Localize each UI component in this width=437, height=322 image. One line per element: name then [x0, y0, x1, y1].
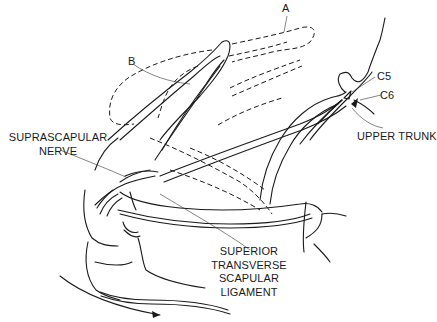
dashed-outline-a — [218, 27, 314, 125]
label-ligament-line-3: SCAPULAR — [207, 272, 291, 286]
label-suprascapular-nerve-line-2: NERVE — [8, 145, 108, 159]
label-ligament-line-4: LIGAMENT — [207, 286, 291, 300]
label-ligament-line-1: SUPERIOR — [207, 245, 291, 259]
scapula-body — [84, 138, 322, 246]
label-upper-trunk: UPPER TRUNK — [357, 130, 437, 144]
leader-lines — [60, 16, 383, 250]
label-c6: C6 — [380, 89, 394, 103]
label-a: A — [282, 2, 289, 16]
label-ligament-line-2: TRANSVERSE — [207, 259, 291, 273]
label-superior-transverse-scapular-ligament: SUPERIOR TRANSVERSE SCAPULAR LIGAMENT — [207, 245, 291, 299]
nerve-branches — [95, 170, 158, 216]
label-suprascapular-nerve-line-1: SUPRASCAPULAR — [8, 131, 108, 145]
dashed-outline-b — [110, 50, 272, 214]
label-c5: C5 — [377, 70, 391, 84]
label-b: B — [128, 55, 135, 69]
scapula-spine — [108, 41, 230, 160]
label-suprascapular-nerve: SUPRASCAPULAR NERVE — [8, 131, 108, 158]
